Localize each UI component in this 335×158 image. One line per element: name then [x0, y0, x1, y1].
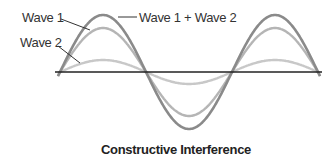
diagram-title: Constructive Interference: [101, 142, 251, 157]
wave-diagram: Wave 1 Wave 2 Wave 1 + Wave 2 Constructi…: [0, 0, 335, 158]
wave-1-label: Wave 1: [22, 10, 64, 25]
diagram-canvas: Wave 1 Wave 2 Wave 1 + Wave 2 Constructi…: [0, 0, 335, 158]
wave-2-label: Wave 2: [20, 35, 62, 50]
sum-label: Wave 1 + Wave 2: [139, 10, 237, 25]
